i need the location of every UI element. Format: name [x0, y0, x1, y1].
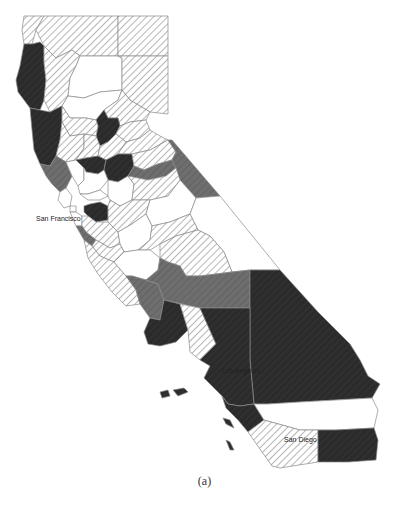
county-humboldt: [16, 42, 46, 110]
label-san-francisco: San Francisco: [36, 215, 81, 222]
island-san-clemente: [226, 440, 234, 450]
island-catalina: [223, 418, 234, 428]
county-san-francisco: [70, 206, 76, 212]
island-santa-rosa: [173, 388, 188, 396]
county-modoc: [118, 16, 168, 56]
county-los-angeles: [200, 308, 254, 406]
figure-caption: (a): [0, 474, 409, 489]
california-county-map: San Francisco Los Angeles San Diego: [0, 0, 409, 470]
county-imperial: [318, 428, 378, 462]
county-san-bernardino: [250, 270, 380, 404]
island-santa-cruz: [160, 390, 170, 398]
label-san-diego: San Diego: [284, 436, 317, 444]
label-los-angeles: Los Angeles: [222, 367, 261, 375]
